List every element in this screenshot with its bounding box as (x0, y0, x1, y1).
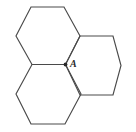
hexagon-diagram-canvas: A (0, 0, 136, 132)
vertex-a-label: A (69, 58, 77, 69)
figure-background (0, 0, 136, 132)
vertex-a-dot (64, 63, 68, 67)
geometry-figure: A (0, 0, 136, 132)
